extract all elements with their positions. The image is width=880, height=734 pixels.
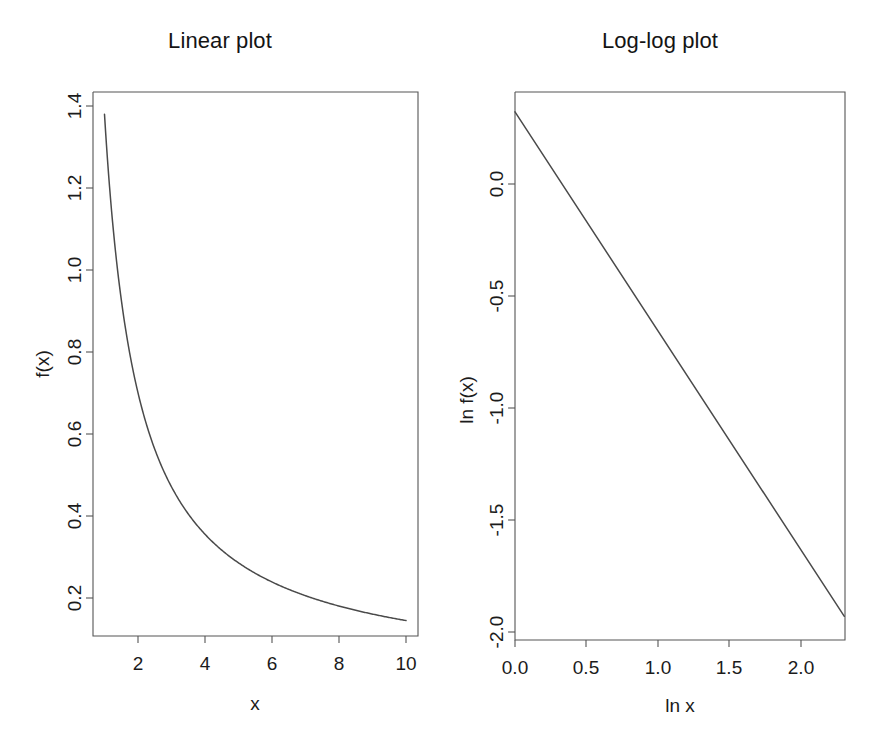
- loglog-x-label-0.0: 0.0: [502, 657, 528, 678]
- loglog-x-tick-labels: 0.0 0.5 1.0 1.5 2.0: [502, 657, 814, 678]
- linear-plot-svg: 0.2 0.4 0.6 0.8 1.0 1.2 1.4 2 4 6: [0, 0, 440, 734]
- linear-x-label-2: 2: [133, 653, 144, 674]
- linear-x-axis-title: x: [250, 693, 260, 714]
- linear-x-label-8: 8: [334, 653, 345, 674]
- linear-y-label-1.0: 1.0: [64, 257, 85, 283]
- linear-x-label-10: 10: [395, 653, 416, 674]
- loglog-data-line: [515, 112, 844, 616]
- loglog-x-label-0.5: 0.5: [573, 657, 599, 678]
- figure-canvas: Linear plot 0.2 0.4 0.6 0.8 1.0: [0, 0, 880, 734]
- linear-y-label-0.4: 0.4: [64, 502, 85, 529]
- linear-x-tick-labels: 2 4 6 8 10: [133, 653, 417, 674]
- loglog-y-tick-labels: -2.0 -1.5 -1.0 -0.5 0.0: [486, 171, 507, 649]
- loglog-y-label--2.0: -2.0: [486, 616, 507, 649]
- linear-data-curve: [105, 114, 407, 620]
- loglog-plot-box: [515, 92, 845, 640]
- linear-y-label-0.2: 0.2: [64, 585, 85, 611]
- linear-y-label-0.8: 0.8: [64, 339, 85, 365]
- panel-linear-plot: Linear plot 0.2 0.4 0.6 0.8 1.0: [0, 0, 440, 734]
- linear-x-label-4: 4: [200, 653, 211, 674]
- linear-plot-box: [93, 92, 418, 636]
- loglog-y-axis-title: ln f(x): [456, 376, 477, 424]
- linear-y-label-0.6: 0.6: [64, 421, 85, 447]
- loglog-x-axis-title: ln x: [665, 695, 695, 716]
- loglog-y-label--1.5: -1.5: [486, 504, 507, 537]
- loglog-y-label-0.0: 0.0: [486, 171, 507, 197]
- linear-y-ticks: [86, 106, 93, 598]
- loglog-plot-svg: -2.0 -1.5 -1.0 -0.5 0.0 0.0 0.5 1.0 1.5: [440, 0, 880, 734]
- loglog-x-ticks: [515, 640, 801, 647]
- loglog-x-label-1.5: 1.5: [716, 657, 742, 678]
- panel-loglog-plot: Log-log plot -2.0 -1.5 -1.0 -0.5 0.0: [440, 0, 880, 734]
- loglog-y-label--0.5: -0.5: [486, 280, 507, 313]
- loglog-x-label-2.0: 2.0: [788, 657, 814, 678]
- linear-y-label-1.2: 1.2: [64, 175, 85, 201]
- linear-y-tick-labels: 0.2 0.4 0.6 0.8 1.0 1.2 1.4: [64, 92, 85, 611]
- loglog-x-label-1.0: 1.0: [645, 657, 671, 678]
- linear-x-ticks: [138, 636, 406, 643]
- linear-x-label-6: 6: [267, 653, 278, 674]
- loglog-y-label--1.0: -1.0: [486, 392, 507, 425]
- linear-y-axis-title: f(x): [32, 350, 53, 377]
- loglog-y-ticks: [508, 184, 515, 632]
- linear-y-label-1.4: 1.4: [64, 92, 85, 119]
